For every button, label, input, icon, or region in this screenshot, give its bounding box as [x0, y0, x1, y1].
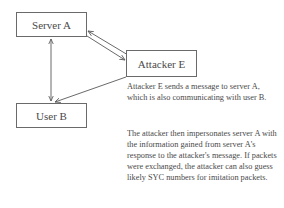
node-user-b: User B	[16, 103, 87, 128]
node-attacker-e: Attacker E	[126, 50, 197, 77]
arrow-attacker-to-user-b	[55, 77, 126, 102]
node-server-a: Server A	[16, 12, 87, 37]
arrow-server-a-to-attacker	[87, 36, 125, 60]
arrow-attacker-to-server-a	[88, 31, 128, 55]
node-user-b-label: User B	[36, 110, 67, 122]
description-paragraph-1: Attacker E sends a message to server A, …	[127, 81, 282, 103]
description-paragraph-2: The attacker then impersonates server A …	[127, 128, 282, 183]
node-server-a-label: Server A	[32, 19, 71, 31]
node-attacker-e-label: Attacker E	[138, 58, 185, 70]
